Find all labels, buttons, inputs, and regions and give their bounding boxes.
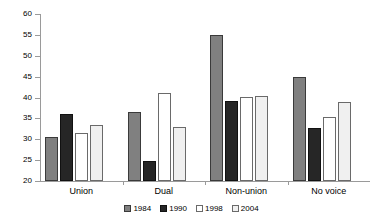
bar-union-2004 xyxy=(90,125,103,181)
y-axis-tick-label: 55 xyxy=(8,31,32,39)
bar-dual-1998 xyxy=(158,93,171,181)
legend-item-1984: 1984 xyxy=(124,204,151,213)
bar-no-voice-1990 xyxy=(308,128,321,181)
y-axis-tick xyxy=(35,181,40,182)
legend-label: 1990 xyxy=(169,204,187,213)
bar-non-union-1998 xyxy=(240,97,253,181)
legend-swatch-icon xyxy=(124,205,131,212)
bar-group xyxy=(288,14,371,181)
bar-dual-2004 xyxy=(173,127,186,181)
y-axis-tick-label: 45 xyxy=(8,73,32,81)
x-axis-group-tick xyxy=(123,181,124,185)
bar-group xyxy=(205,14,288,181)
y-axis-tick-label: 35 xyxy=(8,114,32,122)
bar-union-1990 xyxy=(60,114,73,181)
y-axis-tick-label: 40 xyxy=(8,94,32,102)
y-axis-tick-label: 50 xyxy=(8,52,32,60)
plot-area xyxy=(40,14,370,181)
x-axis-category-label: Union xyxy=(40,186,123,196)
x-axis-category-label: Non-union xyxy=(205,186,288,196)
bar-dual-1984 xyxy=(128,112,141,181)
y-axis-tick-label: 20 xyxy=(8,177,32,185)
bar-no-voice-2004 xyxy=(338,102,351,181)
x-axis-category-label: No voice xyxy=(288,186,371,196)
x-axis-group-tick xyxy=(205,181,206,185)
bar-non-union-2004 xyxy=(255,96,268,181)
legend-item-1998: 1998 xyxy=(196,204,223,213)
y-axis-tick-label: 25 xyxy=(8,156,32,164)
legend-swatch-icon xyxy=(160,205,167,212)
bar-non-union-1990 xyxy=(225,101,238,181)
legend-swatch-icon xyxy=(196,205,203,212)
bar-dual-1990 xyxy=(143,161,156,181)
bar-no-voice-1984 xyxy=(293,77,306,181)
legend-item-2004: 2004 xyxy=(232,204,259,213)
legend-label: 1998 xyxy=(205,204,223,213)
legend-swatch-icon xyxy=(232,205,239,212)
y-axis-tick-label: 30 xyxy=(8,135,32,143)
y-axis-tick-label: 60 xyxy=(8,10,32,18)
chart-legend: 1984199019982004 xyxy=(0,204,383,213)
bar-union-1984 xyxy=(45,137,58,181)
bar-non-union-1984 xyxy=(210,35,223,181)
bar-chart: 202530354045505560 UnionDualNon-unionNo … xyxy=(0,0,383,224)
bar-no-voice-1998 xyxy=(323,117,336,181)
legend-label: 2004 xyxy=(241,204,259,213)
x-axis-group-tick xyxy=(288,181,289,185)
bar-group xyxy=(123,14,206,181)
bar-union-1998 xyxy=(75,133,88,181)
legend-label: 1984 xyxy=(133,204,151,213)
bar-group xyxy=(40,14,123,181)
x-axis-category-label: Dual xyxy=(123,186,206,196)
legend-item-1990: 1990 xyxy=(160,204,187,213)
